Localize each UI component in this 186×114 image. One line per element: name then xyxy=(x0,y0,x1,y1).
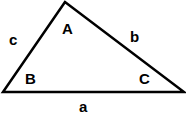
triangle-diagram: A B C a b c xyxy=(0,0,186,114)
vertex-label-A: A xyxy=(62,20,73,37)
vertex-label-C: C xyxy=(139,70,150,87)
side-label-a: a xyxy=(79,98,88,114)
vertex-label-B: B xyxy=(25,70,36,87)
side-label-b: b xyxy=(130,28,139,45)
side-label-c: c xyxy=(9,31,17,48)
